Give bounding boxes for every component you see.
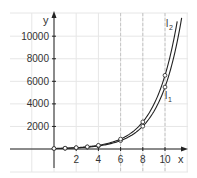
y-tick-label: 6000 (27, 76, 50, 87)
x-tick-label: 10 (159, 154, 171, 165)
y-axis-label: y (43, 14, 49, 26)
data-point-l2 (63, 146, 67, 150)
y-tick-label: 4000 (27, 98, 50, 109)
data-point-l2 (97, 143, 101, 147)
data-point-l1 (163, 85, 167, 89)
data-point-l2 (74, 146, 78, 150)
series (52, 18, 182, 151)
y-tick-label: 10000 (21, 31, 49, 42)
y-axis-arrow (52, 11, 57, 18)
data-point-l2 (85, 145, 89, 149)
data-point-l2 (163, 73, 167, 77)
exponential-chart: x y 246810200040006000800010000 l2l1 (0, 0, 197, 178)
y-tick-label: 8000 (27, 53, 50, 64)
ticks: 246810200040006000800010000 (21, 31, 171, 165)
x-tick-label: 2 (73, 154, 79, 165)
y-tick-label: 2000 (27, 121, 50, 132)
series-label-l2: l (166, 18, 168, 29)
data-point-l2 (141, 120, 145, 124)
data-point-l1 (141, 124, 145, 128)
series-label-l1-sub: 1 (168, 96, 172, 103)
x-tick-label: 8 (140, 154, 146, 165)
x-tick-label: 4 (96, 154, 102, 165)
x-axis-label: x (178, 153, 184, 165)
series-line-l2 (54, 21, 177, 148)
series-label-l1: l (165, 90, 167, 101)
series-label-l2-sub: 2 (169, 24, 173, 31)
x-tick-label: 6 (118, 154, 124, 165)
data-point-l2 (52, 147, 56, 151)
data-point-l2 (119, 137, 123, 141)
